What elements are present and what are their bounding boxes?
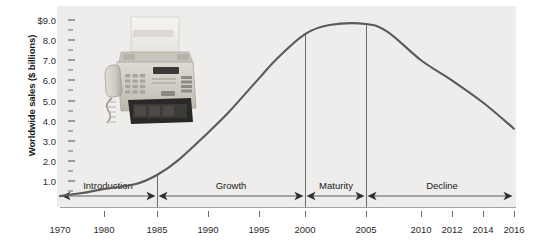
x-tick-label: 1995 — [248, 224, 269, 235]
x-tick-mark — [104, 211, 105, 217]
stage-divider — [366, 24, 367, 207]
x-tick-label: 2014 — [472, 224, 493, 235]
x-axis-ticks: 1970198019851990199520002005201020122014… — [0, 0, 546, 246]
stage-label: Maturity — [319, 180, 353, 191]
x-tick-mark — [421, 211, 422, 217]
x-tick-label: 1985 — [146, 224, 167, 235]
x-tick-mark — [259, 211, 260, 217]
stage-divider — [305, 34, 306, 207]
x-tick-mark — [305, 211, 306, 217]
x-tick-label: 1970 — [49, 224, 70, 235]
x-tick-label: 2005 — [355, 224, 376, 235]
x-tick-label: 2012 — [441, 224, 462, 235]
stage-divider — [157, 175, 158, 207]
x-tick-mark — [157, 211, 158, 217]
x-tick-mark — [514, 211, 515, 217]
x-tick-mark — [366, 211, 367, 217]
x-tick-label: 2016 — [503, 224, 524, 235]
x-tick-mark — [452, 211, 453, 217]
chart-figure: Worldwide sales ($ billions) $9.08.07.06… — [0, 0, 546, 246]
fax-machine-photo — [97, 16, 201, 128]
stage-label: Growth — [216, 180, 247, 191]
x-tick-label: 2010 — [410, 224, 431, 235]
x-tick-mark — [483, 211, 484, 217]
x-tick-label: 2000 — [294, 224, 315, 235]
stage-label: Introduction — [83, 180, 133, 191]
x-tick-label: 1980 — [93, 224, 114, 235]
stage-label: Decline — [426, 180, 458, 191]
x-tick-mark — [208, 211, 209, 217]
x-tick-label: 1990 — [197, 224, 218, 235]
